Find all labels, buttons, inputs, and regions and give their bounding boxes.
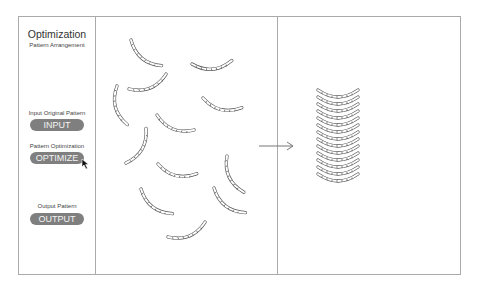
pattern-piece [220, 156, 244, 196]
optimize-button[interactable]: OPTIMIZE [30, 152, 84, 164]
sidebar-subtitle: Pattern Arrangement [18, 42, 96, 48]
input-step-label: Input Original Pattern [18, 110, 96, 116]
pattern-piece [109, 86, 127, 127]
pattern-piece [126, 128, 153, 167]
pattern-piece [156, 164, 197, 181]
pattern-piece [154, 115, 194, 137]
input-button[interactable]: INPUT [30, 119, 84, 131]
pattern-piece [126, 40, 162, 72]
input-pattern-panel [96, 16, 277, 275]
sidebar-title: Optimization [18, 28, 96, 40]
mouse-cursor-icon [81, 158, 91, 170]
output-button[interactable]: OUTPUT [30, 213, 84, 225]
output-pattern-panel [278, 16, 461, 275]
sidebar: Optimization Pattern Arrangement Input O… [18, 16, 96, 275]
pattern-piece [209, 188, 245, 219]
optimize-step-label: Pattern Optimization [18, 143, 96, 149]
pattern-piece [129, 74, 169, 96]
stacked-pattern [318, 90, 358, 182]
output-step-label: Output Pattern [18, 203, 96, 209]
pattern-piece [168, 222, 208, 244]
pattern-piece [201, 98, 242, 115]
pattern-piece [192, 61, 233, 72]
pattern-piece [136, 189, 172, 220]
